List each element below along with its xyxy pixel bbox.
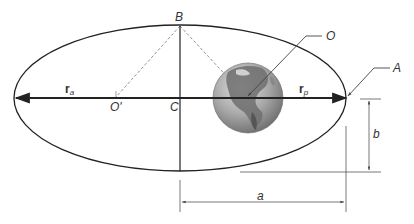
- label-c-center: C: [170, 101, 179, 113]
- label-a-dimension: a: [257, 190, 264, 202]
- label-r-a: ra: [65, 83, 74, 97]
- label-o-prime: O': [110, 101, 122, 113]
- label-r-p: rp: [299, 83, 308, 97]
- a-point-leader-line: [348, 68, 390, 96]
- dashed-line-b-to-o-prime: [116, 26, 180, 97]
- label-o-focus: O: [326, 30, 335, 42]
- label-b-dimension: b: [373, 128, 380, 140]
- r-a-subscript: a: [70, 88, 74, 97]
- r-p-subscript: p: [304, 88, 308, 97]
- label-b-point: B: [175, 11, 183, 23]
- orbit-diagram: [0, 0, 414, 224]
- label-a-point: A: [393, 62, 401, 74]
